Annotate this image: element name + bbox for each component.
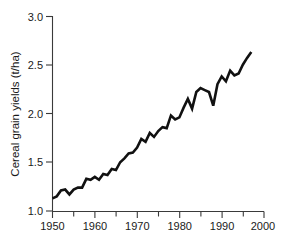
x-axis-tick-labels: 1950 1960 1970 1980 1990 2000 bbox=[40, 220, 275, 232]
x-tick-label-1970: 1970 bbox=[125, 220, 149, 232]
x-tick-label-2000: 2000 bbox=[251, 220, 275, 232]
y-tick-label-1-0: 1.0 bbox=[28, 205, 43, 217]
y-tick-label-1-5: 1.5 bbox=[28, 156, 43, 168]
y-axis-tick-labels: 3.0 2.5 2.0 1.5 1.0 bbox=[28, 11, 43, 218]
chart-canvas: 3.0 2.5 2.0 1.5 1.0 1950 1960 197 bbox=[0, 0, 283, 248]
y-tick-label-2-0: 2.0 bbox=[28, 108, 43, 120]
data-series-line bbox=[53, 52, 252, 198]
y-axis-ticks bbox=[46, 17, 53, 212]
cereal-grain-yield-chart: 3.0 2.5 2.0 1.5 1.0 1950 1960 197 bbox=[0, 0, 283, 248]
x-tick-label-1960: 1960 bbox=[83, 220, 107, 232]
y-tick-label-2-5: 2.5 bbox=[28, 59, 43, 71]
y-axis-title: Cereal grain yields (t/ha) bbox=[9, 51, 21, 176]
x-tick-label-1980: 1980 bbox=[167, 220, 191, 232]
y-tick-label-3-0: 3.0 bbox=[28, 11, 43, 23]
x-tick-label-1990: 1990 bbox=[210, 220, 234, 232]
x-tick-label-1950: 1950 bbox=[40, 220, 64, 232]
x-axis-minor-ticks bbox=[74, 212, 244, 217]
